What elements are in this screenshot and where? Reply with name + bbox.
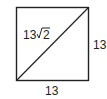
diagonal-label: 13 2 <box>23 28 50 42</box>
diagonal-label-radicand: 2 <box>43 28 50 42</box>
side-label-right: 13 <box>93 38 107 52</box>
square-diagram: 13 2 13 13 <box>0 0 107 99</box>
diagonal-line <box>17 8 89 81</box>
side-label-bottom: 13 <box>45 84 59 98</box>
diagonal-label-coefficient: 13 <box>23 28 37 42</box>
